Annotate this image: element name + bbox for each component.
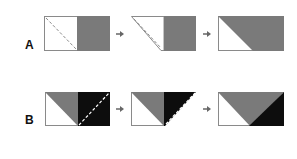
row-b-step-1 [45,92,110,126]
quilt-diagram [0,0,297,159]
row-a-step-1 [45,16,111,51]
row-b-step-3 [218,92,284,126]
arrow-icon [116,31,124,37]
arrow-icon [203,31,211,37]
row-b-step-2 [131,92,196,126]
arrow-icon [203,106,211,112]
arrow-icon [116,106,124,112]
row-a-step-2 [132,16,197,51]
row-a-step-3 [218,16,284,51]
